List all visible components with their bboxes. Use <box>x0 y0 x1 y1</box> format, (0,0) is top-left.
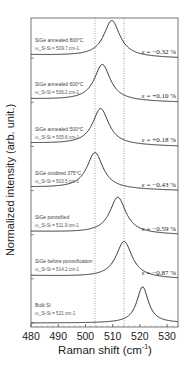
peak-label: ω_Si-Si = 521 cm-1 <box>35 311 76 316</box>
strain-label: ε = −0.59 % <box>142 225 176 233</box>
series-name: SiGe before porosification <box>35 258 93 264</box>
x-tick-label: 490 <box>49 330 67 342</box>
x-tick-label: 530 <box>158 330 176 342</box>
x-tick-label: 500 <box>77 330 95 342</box>
peak-label: ω_Si-Si = 514.2 cm-1 <box>35 267 80 272</box>
peak-label: ω_Si-Si = 503.5 cm-1 <box>35 179 80 184</box>
strain-label: ε = −0.87 % <box>142 269 176 277</box>
strain-label: ε = −0.43 % <box>142 181 176 189</box>
x-tick-label: 480 <box>22 330 40 342</box>
series-name: Bulk Si <box>35 302 51 308</box>
raman-spectra-chart: SiGe annealed 800°Cω_Si-Si = 509.7 cm-1ε… <box>0 0 186 371</box>
x-axis-label: Raman shift (cm-1) <box>58 343 152 356</box>
y-axis-label: Normalized intensity (arb. unit.) <box>4 104 16 256</box>
series-name: SiGe annealed 600°C <box>35 81 84 87</box>
peak-label: ω_Si-Si = 505.6 cm-1 <box>35 135 80 140</box>
series-name: SiGe annealed 500°C <box>35 126 84 132</box>
spectrum-curve <box>31 287 178 323</box>
peak-label: ω_Si-Si = 509.7 cm-1 <box>35 46 80 51</box>
series-labels: SiGe annealed 800°Cω_Si-Si = 509.7 cm-1ε… <box>35 37 176 316</box>
strain-label: ε = +0.10 % <box>142 92 176 100</box>
peak-label: ω_Si-Si = 511.9 cm-1 <box>35 223 79 228</box>
x-tick-label: 520 <box>131 330 149 342</box>
series-name: SiGe oxidized 375°C <box>35 170 82 176</box>
reference-lines <box>95 18 124 327</box>
peak-label: ω_Si-Si = 506.2 cm-1 <box>35 90 80 95</box>
strain-label: ε = −0.32 % <box>142 48 176 56</box>
series-name: SiGe annealed 800°C <box>35 37 84 43</box>
x-tick-label: 510 <box>104 330 122 342</box>
series-name: SiGe porosified <box>35 214 69 220</box>
strain-label: ε = +0.18 % <box>142 136 176 144</box>
